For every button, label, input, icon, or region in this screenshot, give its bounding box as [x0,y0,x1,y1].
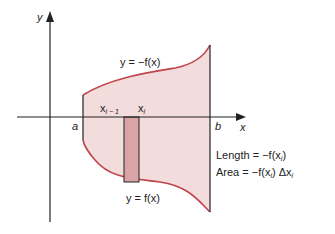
bound-b-label: b [215,120,221,132]
bound-a-label: a [72,120,78,132]
top-curve-label: y = −f(x) [120,56,160,68]
y-axis-arrow-icon [46,11,54,22]
bottom-curve-label: y = f(x) [126,192,160,204]
x-axis-arrow-icon [236,113,246,121]
shaded-region [83,45,210,212]
y-axis-label: y [36,11,44,23]
length-annotation: Length = −f(xi) [216,149,286,162]
area-annotation: Area = −f(xi) Δxi [216,166,294,179]
area-diagram: y x a b y = −f(x) y = f(x) xi − 1 xi Len… [0,0,335,234]
x-axis-label: x [239,121,246,133]
strip-rectangle [124,117,139,182]
